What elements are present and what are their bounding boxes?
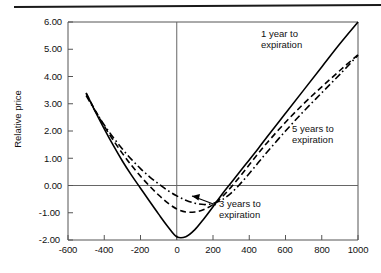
x-tick-label: 0 <box>157 245 197 255</box>
x-tick-label: 400 <box>229 245 269 255</box>
x-tick-label: -600 <box>48 245 88 255</box>
y-tick-label: 4.00 <box>28 72 62 82</box>
y-tick-label: -2.00 <box>26 235 60 245</box>
annotation-3-years-line1: 3 years to <box>219 198 261 209</box>
y-tick-label: -1.00 <box>26 208 60 218</box>
x-tick-label: -200 <box>120 245 160 255</box>
annotation-3-years-line2: expiration <box>219 209 261 220</box>
y-tick-label: 5.00 <box>28 44 62 54</box>
y-tick-label: 3.00 <box>28 99 62 109</box>
annotation-5-years-line2: expiration <box>292 134 334 145</box>
y-axis-title: Relative price <box>13 79 23 159</box>
annotation-1-year-line1: 1 year to <box>261 28 302 39</box>
annotation-1-year: 1 year to expiration <box>261 28 302 50</box>
y-tick-label: 1.00 <box>28 154 62 164</box>
y-axis-ticks <box>68 22 73 240</box>
y-tick-label: 0.00 <box>28 181 62 191</box>
y-tick-label: 2.00 <box>28 126 62 136</box>
x-tick-label: -400 <box>84 245 124 255</box>
x-axis-ticks <box>68 235 358 240</box>
x-tick-label: 200 <box>193 245 233 255</box>
annotation-3-years: 3 years to expiration <box>219 198 261 220</box>
annotation-5-years-line1: 5 years to <box>292 123 334 134</box>
x-tick-label: 800 <box>302 245 342 255</box>
x-tick-label: 600 <box>265 245 305 255</box>
x-tick-label: 1000 <box>338 245 378 255</box>
figure: 6.00 5.00 4.00 3.00 2.00 1.00 0.00 -1.00… <box>0 0 381 273</box>
y-tick-label: 6.00 <box>28 17 62 27</box>
annotation-1-year-line2: expiration <box>261 39 302 50</box>
annotation-5-years: 5 years to expiration <box>292 123 334 145</box>
